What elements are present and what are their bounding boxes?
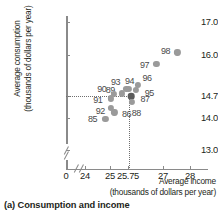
x-tick-mark bbox=[110, 166, 111, 170]
data-point-label: 93 bbox=[111, 77, 120, 87]
data-point-label: 96 bbox=[143, 73, 152, 83]
y-tick-label: 17.0 bbox=[156, 16, 218, 27]
data-point bbox=[102, 116, 108, 122]
data-point-label: 92 bbox=[96, 106, 105, 116]
x-tick-mark bbox=[163, 166, 164, 170]
x-axis-title-line2: (thousands of dollars per year) bbox=[60, 187, 216, 198]
data-point-label: 94 bbox=[125, 76, 134, 86]
y-tick-mark bbox=[66, 55, 70, 56]
x-axis-title-line1: Average income bbox=[159, 176, 216, 186]
data-point-label: 95 bbox=[145, 88, 154, 98]
y-tick-mark bbox=[66, 22, 70, 23]
data-point bbox=[135, 82, 141, 88]
y-tick-label: 13.0 bbox=[156, 144, 218, 155]
data-point-label: 98 bbox=[161, 46, 170, 56]
y-tick-mark bbox=[66, 150, 70, 151]
x-tick-mark bbox=[85, 166, 86, 170]
y-axis-title-line2: (thousands of dollars per year) bbox=[22, 0, 33, 129]
data-point-label: 97 bbox=[140, 60, 149, 70]
data-point bbox=[153, 61, 159, 67]
x-axis-title: Average income (thousands of dollars per… bbox=[60, 176, 216, 197]
y-tick-label: 14.7 bbox=[156, 90, 218, 101]
y-axis-line bbox=[66, 16, 68, 144]
chart-root: Average consumption (thousands of dollar… bbox=[0, 0, 218, 217]
data-point-label: 88 bbox=[132, 108, 141, 118]
data-point bbox=[108, 95, 114, 101]
data-point bbox=[133, 87, 139, 93]
data-point bbox=[129, 99, 135, 105]
y-axis-title-line1: Average consumption bbox=[12, 20, 22, 96]
data-point-label: 91 bbox=[93, 95, 102, 105]
reference-line-vertical bbox=[129, 96, 130, 168]
data-point bbox=[125, 86, 131, 92]
y-tick-label: 14.0 bbox=[156, 112, 218, 123]
data-point-label: 86 bbox=[122, 109, 131, 119]
figure-caption: (a) Consumption and income bbox=[4, 200, 130, 210]
y-tick-mark bbox=[66, 118, 70, 119]
data-point-label: 90 bbox=[97, 84, 106, 94]
x-tick-mark bbox=[190, 166, 191, 170]
y-axis-title: Average consumption (thousands of dollar… bbox=[12, 0, 33, 129]
